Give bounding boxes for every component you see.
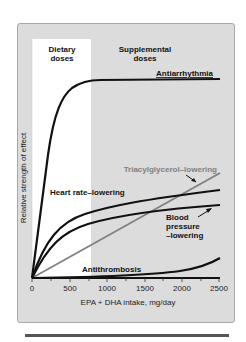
tick-label-0: 0: [30, 284, 35, 293]
tick-label-2000: 2000: [173, 284, 191, 293]
blood-pressure-label-2: pressure: [166, 222, 200, 231]
dietary-label-2: doses: [50, 54, 74, 63]
blood-pressure-label-3: –lowering: [166, 231, 203, 240]
antithrombosis-label: Antithrombosis: [82, 265, 142, 274]
supplemental-label-2: doses: [133, 54, 157, 63]
x-axis-label: EPA + DHA intake, mg/day: [81, 298, 176, 307]
triacylglycerol-label: Triacylglycerol–lowering: [124, 165, 217, 174]
blood-pressure-label-1: Blood: [166, 213, 189, 222]
tick-label-2500: 2500: [210, 284, 228, 293]
bottom-rule: [25, 334, 229, 337]
heart-rate-label: Heart rate–lowering: [50, 188, 125, 197]
dietary-label-1: Dietary: [48, 45, 76, 54]
dietary-region: [32, 39, 91, 278]
tick-label-1000: 1000: [98, 284, 116, 293]
tick-label-500: 500: [63, 284, 77, 293]
supplemental-label-1: Supplemental: [119, 45, 171, 54]
antiarrhythmia-label: Antiarrhythmia: [156, 69, 213, 78]
tick-label-1500: 1500: [136, 284, 154, 293]
chart-svg: Dietary doses Supplemental doses Relativ…: [0, 0, 246, 342]
y-axis-label: Relative strength of effect: [19, 132, 28, 223]
